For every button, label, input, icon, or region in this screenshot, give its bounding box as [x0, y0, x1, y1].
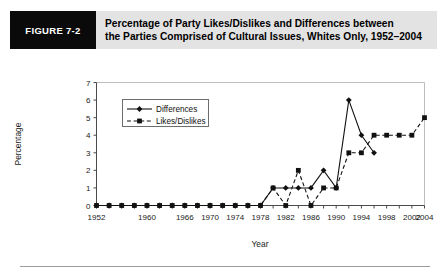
x-tick-label: 2004: [416, 213, 434, 222]
y-tick-label: 2: [86, 166, 91, 175]
legend-label: Differences: [156, 105, 197, 114]
y-axis-title: Percentage: [13, 122, 23, 165]
data-point-square: [296, 168, 301, 173]
data-point-square: [157, 203, 162, 208]
y-tick-label: 0: [86, 202, 91, 211]
figure-number-block: FIGURE 7-2: [10, 11, 96, 49]
data-point-square: [346, 150, 351, 155]
data-point-square: [119, 203, 124, 208]
y-axis-ticks: 01234567: [86, 79, 96, 211]
x-tick-label: 1994: [353, 213, 371, 222]
data-point-square: [422, 115, 427, 120]
x-tick-label: 1986: [302, 213, 320, 222]
data-point-square: [195, 203, 200, 208]
legend-label: Likes/Dislikes: [156, 117, 206, 126]
x-tick-label: 1982: [277, 213, 295, 222]
data-point-diamond: [283, 185, 289, 191]
x-tick-label: 1998: [378, 213, 396, 222]
data-point-square: [182, 203, 187, 208]
chart-figure: 01234567 Percentage 19521960196619701974…: [0, 55, 447, 251]
x-tick-label: 1960: [138, 213, 156, 222]
x-tick-label: 1974: [226, 213, 244, 222]
data-point-square: [397, 133, 402, 138]
x-axis-title: Year: [252, 239, 269, 249]
line-chart: 01234567 Percentage 19521960196619701974…: [0, 55, 447, 251]
y-tick-label: 4: [86, 131, 91, 140]
y-tick-label: 5: [86, 114, 91, 123]
data-point-square: [220, 203, 225, 208]
y-tick-label: 3: [86, 149, 91, 158]
data-point-square: [384, 133, 389, 138]
x-axis: 1952196019661970197419781982198619901994…: [88, 206, 434, 250]
data-point-square: [132, 203, 137, 208]
data-point-square: [409, 133, 414, 138]
data-point-square: [372, 133, 377, 138]
data-point-square: [233, 203, 238, 208]
figure-header: FIGURE 7-2 Percentage of Party Likes/Dis…: [10, 11, 437, 49]
data-point-square: [170, 203, 175, 208]
bottom-divider: [20, 266, 430, 267]
series-likes-dislikes: [94, 115, 427, 208]
data-point-square: [208, 203, 213, 208]
y-tick-label: 6: [86, 96, 91, 105]
series-line: [97, 118, 425, 206]
x-tick-label: 1966: [176, 213, 194, 222]
data-point-square: [359, 150, 364, 155]
x-tick-label: 1970: [201, 213, 219, 222]
figure-title-line-1: Percentage of Party Likes/Dislikes and D…: [105, 17, 431, 31]
data-point-square: [245, 203, 250, 208]
data-point-square: [271, 186, 276, 191]
data-point-square: [94, 203, 99, 208]
data-point-square: [107, 203, 112, 208]
chart-legend: DifferencesLikes/Dislikes: [123, 100, 209, 127]
data-point-diamond: [346, 97, 352, 103]
y-tick-label: 7: [86, 79, 91, 88]
data-point-square: [137, 119, 142, 124]
x-tick-label: 1990: [327, 213, 345, 222]
x-tick-label: 1952: [88, 213, 106, 222]
data-point-square: [309, 203, 314, 208]
data-point-square: [283, 203, 288, 208]
data-point-square: [145, 203, 150, 208]
figure-title-block: Percentage of Party Likes/Dislikes and D…: [96, 11, 437, 49]
data-point-square: [321, 186, 326, 191]
data-point-square: [258, 203, 263, 208]
y-axis: 01234567 Percentage: [13, 79, 97, 211]
data-point-square: [334, 186, 339, 191]
figure-number-label: FIGURE 7-2: [25, 25, 80, 36]
data-point-diamond: [295, 185, 301, 191]
y-tick-label: 1: [86, 184, 91, 193]
x-tick-label: 1978: [252, 213, 270, 222]
figure-title-line-2: the Parties Comprised of Cultural Issues…: [105, 30, 431, 44]
